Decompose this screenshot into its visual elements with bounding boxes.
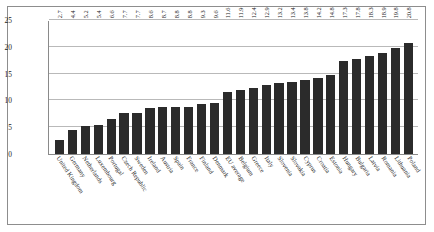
y-axis-tick-label: 20 [0, 44, 12, 51]
x-label-slot: Lithuania [389, 156, 402, 228]
x-label-slot: Netherlands [78, 156, 91, 228]
x-label-slot: Bulgaria [350, 156, 363, 228]
screenshot-root: 2.74.45.25.46.67.77.78.68.78.88.89.39.61… [0, 0, 434, 232]
x-label-slot: United Kingdom [52, 156, 65, 228]
x-label-slot: Italy [260, 156, 273, 228]
x-label-slot: Czech Republic [117, 156, 130, 228]
x-label-slot: Poland [402, 156, 415, 228]
chart-figure-frame: 2.74.45.25.46.67.77.78.68.78.88.89.39.61… [7, 6, 426, 225]
x-label-slot: Spain [169, 156, 182, 228]
x-label-slot: France [182, 156, 195, 228]
x-label-slot: Belgium [234, 156, 247, 228]
y-axis-tick-label: 10 [0, 98, 12, 105]
y-axis-tick-label: 25 [0, 17, 12, 24]
x-label-slot: Hungary [337, 156, 350, 228]
x-label-slot: Germany [65, 156, 78, 228]
x-label-slot: Sweden [130, 156, 143, 228]
x-label-slot: Luxembourg [91, 156, 104, 228]
x-label-slot: Latvia [363, 156, 376, 228]
x-label-slot: Greece [247, 156, 260, 228]
y-axis-tick-label: 0 [0, 151, 12, 158]
x-label-slot: Slovakia [285, 156, 298, 228]
x-label-slot: EU average [221, 156, 234, 228]
x-label-slot: Cyprus [298, 156, 311, 228]
x-axis-category-labels: United KingdomGermanyNetherlandsLuxembou… [48, 156, 418, 228]
x-label-slot: Finland [195, 156, 208, 228]
x-label-slot: Romania [376, 156, 389, 228]
y-axis-tick-label: 15 [0, 71, 12, 78]
x-label-slot: Croatia [311, 156, 324, 228]
x-label-slot: Slovenia [272, 156, 285, 228]
x-label-slot: Portugal [104, 156, 117, 228]
x-label-slot: Denmark [208, 156, 221, 228]
x-label-slot: Austria [156, 156, 169, 228]
x-label-slot: Ireland [143, 156, 156, 228]
y-axis-tick-label: 5 [0, 124, 12, 131]
x-label-slot: Estonia [324, 156, 337, 228]
